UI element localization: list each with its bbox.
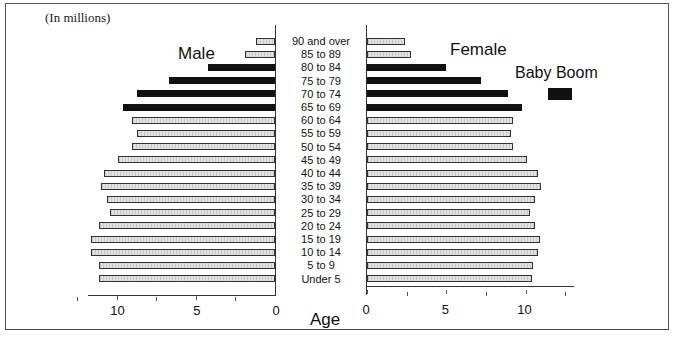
legend-swatch xyxy=(548,88,572,100)
female-tick xyxy=(486,292,487,296)
age-group-label: 75 to 79 xyxy=(266,75,376,87)
male-tick xyxy=(77,297,78,301)
male-bar xyxy=(169,77,275,84)
male-bar xyxy=(132,143,275,150)
female-label: Female xyxy=(450,40,507,60)
age-group-label: 45 to 49 xyxy=(266,154,376,166)
age-group-label: 20 to 24 xyxy=(266,220,376,232)
male-tick xyxy=(235,297,236,301)
female-tick xyxy=(526,290,527,294)
age-group-label: 10 to 14 xyxy=(266,246,376,258)
age-group-label: 70 to 74 xyxy=(266,88,376,100)
female-tick xyxy=(407,292,408,296)
age-axis-title: Age xyxy=(310,310,340,330)
age-group-label: 50 to 54 xyxy=(266,141,376,153)
age-group-label: 5 to 9 xyxy=(266,259,376,271)
male-bar xyxy=(104,170,275,177)
age-group-label: 30 to 34 xyxy=(266,193,376,205)
female-bar xyxy=(367,183,541,190)
male-bar xyxy=(110,209,275,216)
male-tick xyxy=(156,297,157,301)
age-group-label: 55 to 59 xyxy=(266,127,376,139)
female-bar xyxy=(367,275,532,282)
female-bar xyxy=(367,90,508,97)
age-group-label: 65 to 69 xyxy=(266,101,376,113)
female-bar xyxy=(367,64,446,71)
male-tick-label: 10 xyxy=(110,303,124,318)
female-tick-label: 0 xyxy=(362,302,369,317)
female-bar xyxy=(367,156,527,163)
male-tick-label: 0 xyxy=(272,303,279,318)
female-bar xyxy=(367,209,530,216)
female-bar xyxy=(367,262,533,269)
female-tick xyxy=(446,290,447,294)
male-bar xyxy=(137,130,275,137)
male-tick xyxy=(196,296,197,300)
female-bar xyxy=(367,104,522,111)
age-group-label: 80 to 84 xyxy=(266,61,376,73)
female-tick-label: 10 xyxy=(517,302,531,317)
female-bar xyxy=(367,130,511,137)
female-bar xyxy=(367,222,535,229)
age-group-label: Under 5 xyxy=(266,273,376,285)
male-bar xyxy=(137,90,275,97)
age-group-label: 85 to 89 xyxy=(266,48,376,60)
female-tick xyxy=(565,292,566,296)
male-bar xyxy=(208,64,275,71)
age-group-label: 40 to 44 xyxy=(266,167,376,179)
male-bar xyxy=(99,275,275,282)
male-bar xyxy=(91,236,275,243)
male-bar xyxy=(91,249,275,256)
female-bar xyxy=(367,170,538,177)
male-tick-label: 5 xyxy=(193,303,200,318)
male-label: Male xyxy=(178,44,215,64)
age-group-label: 25 to 29 xyxy=(266,207,376,219)
female-tick xyxy=(367,290,368,294)
female-bar xyxy=(367,249,538,256)
male-bar xyxy=(107,196,275,203)
male-bar xyxy=(132,117,275,124)
units-note: (In millions) xyxy=(45,10,110,26)
legend-label: Baby Boom xyxy=(515,64,598,82)
male-tick xyxy=(117,296,118,300)
female-bar xyxy=(367,236,540,243)
male-bar xyxy=(123,104,275,111)
female-bar xyxy=(367,196,535,203)
age-group-label: 35 to 39 xyxy=(266,180,376,192)
female-bar xyxy=(367,143,513,150)
male-bar xyxy=(118,156,275,163)
female-x-axis xyxy=(366,286,574,287)
male-bar xyxy=(101,183,275,190)
male-bar xyxy=(99,222,275,229)
female-tick-label: 5 xyxy=(442,302,449,317)
female-bar xyxy=(367,117,513,124)
female-bar xyxy=(367,77,481,84)
age-group-label: 15 to 19 xyxy=(266,233,376,245)
age-group-label: 90 and over xyxy=(266,35,376,47)
male-bar xyxy=(99,262,275,269)
age-group-label: 60 to 64 xyxy=(266,114,376,126)
